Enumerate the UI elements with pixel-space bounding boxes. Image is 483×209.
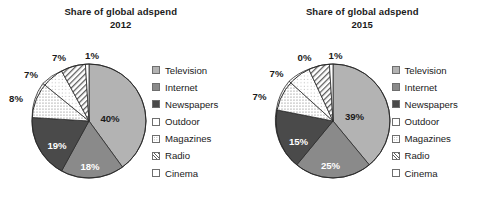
legend-item-cinema[interactable]: Cinema (392, 166, 483, 180)
legend-label-television: Television (165, 65, 207, 76)
swatch-newspapers-icon (152, 100, 160, 108)
chart-legend-2012: Television Internet Newspapers Outdoor M… (152, 63, 244, 180)
legend-item-newspapers[interactable]: Newspapers (152, 97, 244, 111)
legend-label-magazines: Magazines (405, 133, 451, 144)
legend-item-cinema[interactable]: Cinema (152, 166, 244, 180)
pie-label-outdoor: 7% (253, 91, 267, 102)
legend-label-outdoor: Outdoor (405, 116, 440, 127)
legend-item-internet[interactable]: Internet (152, 80, 244, 94)
legend-label-radio: Radio (165, 150, 190, 161)
chart-panel-2012: Share of global adspend 2012 (0, 0, 242, 209)
swatch-radio-icon (152, 152, 160, 160)
legend-label-newspapers: Newspapers (405, 99, 458, 110)
legend-item-internet[interactable]: Internet (392, 80, 483, 94)
pie-label-television: 39% (345, 111, 364, 122)
pie-label-radio: 0% (298, 52, 312, 63)
legend-item-television[interactable]: Television (392, 63, 483, 77)
swatch-cinema-icon (152, 169, 160, 177)
legend-item-television[interactable]: Television (152, 63, 244, 77)
legend-label-cinema: Cinema (165, 168, 198, 179)
swatch-cinema-icon (392, 169, 400, 177)
legend-item-radio[interactable]: Radio (152, 149, 244, 163)
swatch-internet-icon (392, 83, 400, 91)
pie-label-magazines: 7% (24, 69, 38, 80)
swatch-outdoor-icon (152, 118, 160, 126)
legend-label-cinema: Cinema (405, 168, 438, 179)
pie-label-magazines: 7% (270, 68, 284, 79)
swatch-magazines-icon (392, 135, 400, 143)
pie-label-outdoor: 8% (9, 93, 23, 104)
pie-chart-pair: Share of global adspend 2012 (0, 0, 483, 209)
legend-item-outdoor[interactable]: Outdoor (392, 115, 483, 129)
legend-label-internet: Internet (405, 82, 438, 93)
legend-label-television: Television (405, 65, 447, 76)
chart-legend-2015: Television Internet Newspapers Outdoor M… (392, 63, 483, 180)
swatch-magazines-icon (152, 135, 160, 143)
pie-label-radio: 7% (52, 52, 66, 63)
legend-item-magazines[interactable]: Magazines (152, 132, 244, 146)
pie-label-newspapers: 15% (289, 136, 308, 147)
legend-label-outdoor: Outdoor (165, 116, 200, 127)
legend-label-radio: Radio (405, 150, 430, 161)
legend-item-radio[interactable]: Radio (392, 149, 483, 163)
swatch-outdoor-icon (392, 118, 400, 126)
swatch-radio-icon (392, 152, 400, 160)
pie-label-cinema: 1% (85, 50, 99, 61)
pie-label-internet: 18% (80, 161, 99, 172)
swatch-newspapers-icon (392, 100, 400, 108)
legend-label-internet: Internet (165, 82, 198, 93)
swatch-internet-icon (152, 83, 160, 91)
chart-panel-2015: Share of global adspend 2015 (242, 0, 483, 209)
pie-label-internet: 25% (321, 160, 340, 171)
swatch-television-icon (152, 66, 160, 74)
legend-item-outdoor[interactable]: Outdoor (152, 115, 244, 129)
legend-item-magazines[interactable]: Magazines (392, 132, 483, 146)
pie-label-newspapers: 19% (47, 140, 66, 151)
swatch-television-icon (392, 66, 400, 74)
legend-label-magazines: Magazines (165, 133, 211, 144)
legend-label-newspapers: Newspapers (165, 99, 218, 110)
pie-label-television: 40% (100, 113, 119, 124)
pie-label-cinema: 1% (329, 50, 343, 61)
legend-item-newspapers[interactable]: Newspapers (392, 97, 483, 111)
